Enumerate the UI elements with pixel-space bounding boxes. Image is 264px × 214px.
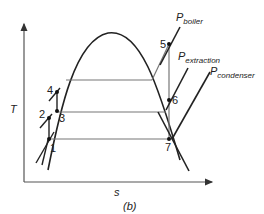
state-point-2 bbox=[47, 116, 51, 120]
state-point-1 bbox=[47, 137, 51, 141]
state-point-6 bbox=[167, 98, 171, 102]
t-s-diagram: 1 2 3 4 5 6 7 Pboiler Pextraction Pconde… bbox=[0, 0, 264, 214]
state-label-2: 2 bbox=[39, 108, 45, 120]
state-point-5 bbox=[167, 42, 171, 46]
figure-caption: (b) bbox=[123, 200, 137, 212]
y-axis-label: T bbox=[10, 103, 18, 115]
isobar-label-boiler: Pboiler bbox=[176, 11, 203, 26]
state-label-7: 7 bbox=[165, 141, 171, 153]
isobar-condenser-liquid bbox=[158, 112, 189, 171]
state-label-6: 6 bbox=[172, 94, 178, 106]
x-axis-label: s bbox=[114, 186, 120, 198]
isobar-label-condenser: Pcondenser bbox=[210, 65, 255, 80]
state-label-5: 5 bbox=[160, 38, 166, 50]
state-label-3: 3 bbox=[59, 112, 65, 124]
isobar-label-extraction: Pextraction bbox=[178, 50, 221, 65]
state-point-4 bbox=[55, 90, 59, 94]
state-label-1: 1 bbox=[50, 142, 56, 154]
state-label-4: 4 bbox=[47, 84, 53, 96]
saturation-dome bbox=[48, 33, 180, 170]
